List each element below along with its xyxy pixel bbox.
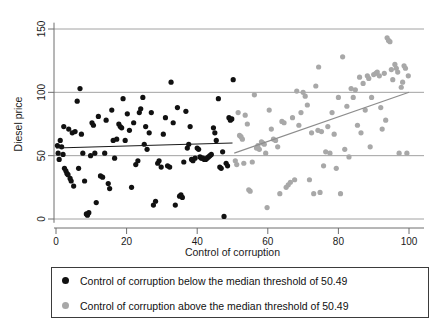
scatter-point xyxy=(240,137,245,142)
scatter-point xyxy=(257,147,262,152)
y-tick-label: 50 xyxy=(36,150,47,162)
scatter-point xyxy=(236,110,241,115)
scatter-point xyxy=(298,110,303,115)
x-axis-title: Control of corruption xyxy=(185,246,280,258)
scatter-point xyxy=(329,110,334,115)
scatter-point xyxy=(129,185,134,190)
regression-lines xyxy=(56,92,409,153)
scatter-point xyxy=(92,151,97,156)
scatter-point xyxy=(234,162,239,167)
scatter-point xyxy=(353,87,358,92)
scatter-point xyxy=(212,130,217,135)
scatter-point xyxy=(71,183,76,188)
scatter-point xyxy=(156,158,161,163)
scatter-point xyxy=(229,116,234,121)
scatter-point xyxy=(281,120,286,125)
scatter-point xyxy=(387,39,392,44)
scatter-point xyxy=(221,214,226,219)
scatter-point xyxy=(214,138,219,143)
scatter-point xyxy=(275,144,280,149)
scatter-point xyxy=(60,152,65,157)
scatter-point xyxy=(149,110,154,115)
scatter-point xyxy=(163,115,168,120)
x-tick-label: 80 xyxy=(333,236,345,247)
scatter-point xyxy=(76,166,81,171)
scatter-point xyxy=(406,73,411,78)
scatter-point xyxy=(231,77,236,82)
scatter-point xyxy=(106,181,111,186)
scatter-point xyxy=(61,124,66,129)
scatter-point xyxy=(79,132,84,137)
x-tick-label: 20 xyxy=(121,236,133,247)
scatter-point xyxy=(303,94,308,99)
scatter-point xyxy=(355,123,360,128)
scatter-point xyxy=(72,129,77,134)
scatter-point xyxy=(196,147,201,152)
scatter-point xyxy=(395,69,400,74)
scatter-point xyxy=(340,54,345,59)
scatter-point xyxy=(168,80,173,85)
scatter-point xyxy=(66,126,71,131)
scatter-point xyxy=(127,128,132,133)
scatter-point xyxy=(250,159,255,164)
legend-marker-gray-circle-icon xyxy=(62,302,69,309)
scatter-point xyxy=(114,137,119,142)
scatter-point xyxy=(277,191,282,196)
scatter-point xyxy=(368,144,373,149)
scatter-point xyxy=(336,95,341,100)
scatter-point xyxy=(69,178,74,183)
legend-item-above-threshold: Control of corruption above the median t… xyxy=(52,293,428,318)
scatter-point xyxy=(382,71,387,76)
scatter-point xyxy=(338,191,343,196)
scatter-point xyxy=(369,95,374,100)
scatter-point xyxy=(383,118,388,123)
legend-label-below-threshold: Control of corruption below the median t… xyxy=(80,275,347,287)
scatter-plot-svg: 050100150020406080100 Control of corrupt… xyxy=(0,0,437,258)
scatter-point xyxy=(96,114,101,119)
chart-legend: Control of corruption below the median t… xyxy=(51,267,429,318)
scatter-point xyxy=(252,92,257,97)
scatter-point xyxy=(316,64,321,69)
scatter-point xyxy=(319,129,324,134)
scatter-point xyxy=(135,158,140,163)
scatter-point xyxy=(243,113,248,118)
scatter-point xyxy=(403,66,408,71)
scatter-point xyxy=(292,177,297,182)
scatter-point xyxy=(131,120,136,125)
scatter-point xyxy=(358,130,363,135)
scatter-point xyxy=(94,200,99,205)
scatter-point xyxy=(311,191,316,196)
scatter-point xyxy=(269,126,274,131)
scatter-point xyxy=(107,186,112,191)
scatter-point xyxy=(173,202,178,207)
scatter-point xyxy=(267,107,272,112)
scatter-point xyxy=(209,152,214,157)
scatter-point xyxy=(321,163,326,168)
legend-marker-black-circle-icon xyxy=(62,277,69,284)
scatter-point xyxy=(334,166,339,171)
scatter-point xyxy=(100,175,105,180)
scatter-point xyxy=(58,138,63,143)
scatter-point xyxy=(143,124,148,129)
plot-area: 050100150020406080100 Control of corrupt… xyxy=(0,0,437,258)
axis-lines xyxy=(54,23,424,228)
scatter-point xyxy=(264,205,269,210)
scatter-point xyxy=(102,151,107,156)
scatter-point xyxy=(104,118,109,123)
scatter-point xyxy=(140,95,145,100)
scatter-point xyxy=(75,99,80,104)
scatter-point xyxy=(159,164,164,169)
scatter-point xyxy=(248,189,253,194)
scatter-point xyxy=(351,95,356,100)
y-tick-label: 0 xyxy=(36,216,47,222)
scatter-point xyxy=(57,157,62,162)
scatter-point xyxy=(346,154,351,159)
scatter-point xyxy=(144,147,149,152)
scatter-point xyxy=(225,163,230,168)
scatter-point xyxy=(123,138,128,143)
scatter-point xyxy=(56,151,61,156)
scatter-point xyxy=(192,156,197,161)
scatter-point xyxy=(138,106,143,111)
scatter-point xyxy=(125,111,130,116)
scatter-point xyxy=(290,115,295,120)
